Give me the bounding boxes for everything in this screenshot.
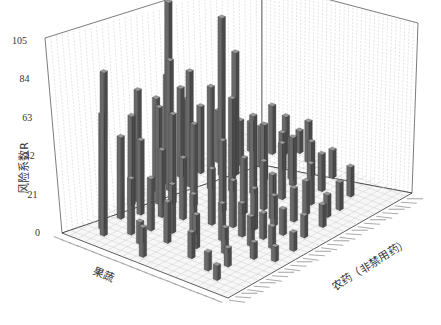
bar <box>300 212 308 238</box>
bar <box>279 206 287 236</box>
bar <box>290 229 298 251</box>
z-axis-title: 果蔬 <box>91 265 116 285</box>
x-axis-title: 农药（非禁用药） <box>329 235 411 294</box>
bar <box>259 210 267 240</box>
bar <box>188 229 196 259</box>
bar <box>271 244 279 262</box>
bar <box>260 159 268 211</box>
bar <box>139 224 147 257</box>
y-tick-label: 0 <box>35 227 40 238</box>
bar <box>100 69 108 236</box>
y-tick-label: 84 <box>20 73 30 84</box>
bar <box>204 249 212 271</box>
bar <box>270 193 278 226</box>
bar <box>164 199 172 243</box>
y-tick-label: 105 <box>12 35 27 46</box>
bar <box>329 147 337 178</box>
bar <box>228 96 236 192</box>
bar <box>127 176 135 235</box>
bar <box>268 103 276 155</box>
bar <box>318 151 326 192</box>
bar <box>296 128 304 154</box>
bar <box>117 134 125 219</box>
y-tick-label: 63 <box>22 112 32 123</box>
y-axis-title: 风险系数R <box>17 142 31 194</box>
bar <box>290 185 298 222</box>
bar <box>197 104 205 174</box>
bar <box>179 155 187 220</box>
bar <box>137 138 145 216</box>
bar <box>250 113 258 195</box>
bar <box>147 176 155 232</box>
bar <box>319 202 327 228</box>
bar <box>224 245 232 267</box>
bar <box>213 262 221 280</box>
bar <box>302 178 310 215</box>
bar <box>278 141 286 200</box>
y-axis-ticks: 021426384105 <box>12 35 40 238</box>
bar3d-chart: 021426384105 风险系数R 农药（非禁用药） 果蔬 <box>0 0 441 325</box>
bar <box>229 178 237 228</box>
bar <box>250 239 258 259</box>
bar <box>336 179 344 210</box>
bar <box>347 164 355 197</box>
bar <box>238 200 246 237</box>
bar <box>289 135 297 187</box>
bar <box>208 166 216 225</box>
